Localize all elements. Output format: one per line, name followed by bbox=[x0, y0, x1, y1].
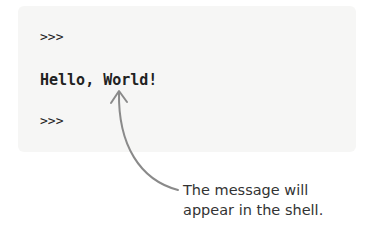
annotation-caption: The message will appear in the shell. bbox=[183, 180, 323, 220]
caption-line: appear in the shell. bbox=[183, 200, 323, 220]
caption-line: The message will bbox=[183, 180, 323, 200]
